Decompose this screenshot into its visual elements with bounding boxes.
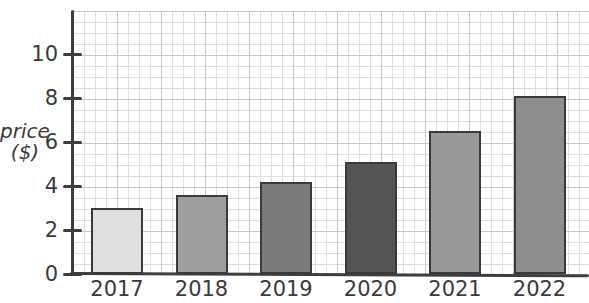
y-tick-mark-0 (63, 273, 82, 276)
y-tick-label-10: 10 (14, 43, 58, 65)
bar-2021 (429, 131, 481, 274)
y-tick-label-4: 4 (14, 175, 58, 197)
y-tick-mark-10 (63, 53, 82, 56)
x-tick-label-2017: 2017 (77, 278, 157, 301)
x-tick-label-2019: 2019 (246, 278, 326, 301)
plot-area-grid (73, 11, 589, 274)
bar-2017 (91, 208, 143, 274)
y-tick-label-2: 2 (14, 219, 58, 241)
bar-2018 (176, 195, 228, 274)
x-tick-label-2022: 2022 (500, 278, 580, 301)
bar-chart: price ($) 0246810 2017201820192020202120… (0, 0, 589, 303)
bar-2019 (260, 182, 312, 274)
y-tick-mark-2 (63, 229, 82, 232)
y-tick-mark-4 (63, 185, 82, 188)
x-tick-label-2018: 2018 (162, 278, 242, 301)
y-tick-label-0: 0 (14, 263, 58, 285)
y-tick-mark-6 (63, 141, 82, 144)
y-tick-label-6: 6 (14, 131, 58, 153)
bar-2022 (514, 96, 566, 274)
y-tick-label-8: 8 (14, 87, 58, 109)
bar-2020 (345, 162, 397, 274)
x-tick-label-2020: 2020 (331, 278, 411, 301)
y-tick-mark-8 (63, 97, 82, 100)
x-tick-label-2021: 2021 (415, 278, 495, 301)
